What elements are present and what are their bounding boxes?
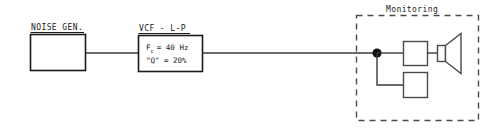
monitoring-label: Monitoring (386, 5, 438, 14)
noise-gen-group: NOISE GEN. (31, 23, 86, 71)
vcf-param-cutoff-value: = 40 Hz (157, 43, 189, 52)
vcf-box (139, 36, 203, 72)
wire-junction-to-aux (377, 53, 403, 85)
speaker-cone (446, 34, 462, 74)
signal-flow-diagram: NOISE GEN. VCF - L-P Fc= 40 Hz "Q" = 20%… (0, 0, 500, 134)
noise-gen-box (31, 35, 86, 71)
vcf-param-cutoff-subscript: c (151, 48, 154, 54)
noise-gen-label: NOISE GEN. (31, 23, 83, 32)
diagram-canvas: NOISE GEN. VCF - L-P Fc= 40 Hz "Q" = 20%… (0, 0, 500, 134)
monitoring-group: Monitoring (357, 5, 479, 121)
monitoring-aux-box (404, 73, 428, 98)
vcf-group: VCF - L-P Fc= 40 Hz "Q" = 20% (139, 24, 203, 72)
monitoring-amp-box (404, 42, 428, 66)
vcf-param-q: "Q" = 20% (146, 56, 187, 65)
vcf-label: VCF - L-P (139, 24, 186, 33)
speaker-icon (438, 34, 462, 74)
speaker-body (438, 46, 446, 62)
